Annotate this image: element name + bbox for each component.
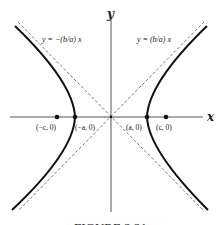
focus-point-right <box>164 115 169 120</box>
vertex-point-right <box>145 115 150 120</box>
vertex-label-left: (−a, 0) <box>75 123 96 132</box>
focus-label-right: (c, 0) <box>156 123 172 132</box>
origin-point <box>110 116 112 118</box>
hyperbola-diagram: y x y = −(b/a) x y = (b/a) x (−c, 0) (−a… <box>0 0 223 225</box>
vertex-point-left <box>73 115 78 120</box>
x-axis-label: x <box>206 110 215 124</box>
hyperbola-left-branch <box>12 26 75 210</box>
vertex-label-right: (a, 0) <box>126 123 142 132</box>
focus-label-left: (−c, 0) <box>36 123 57 132</box>
asymptote-label-negative: y = −(b/a) x <box>41 35 82 44</box>
figure-caption: FIGURE 2.21 <box>74 220 147 225</box>
focus-point-left <box>55 115 60 120</box>
hyperbola-right-branch <box>147 26 208 210</box>
y-axis-label: y <box>106 7 115 21</box>
asymptote-label-positive: y = (b/a) x <box>136 35 172 44</box>
